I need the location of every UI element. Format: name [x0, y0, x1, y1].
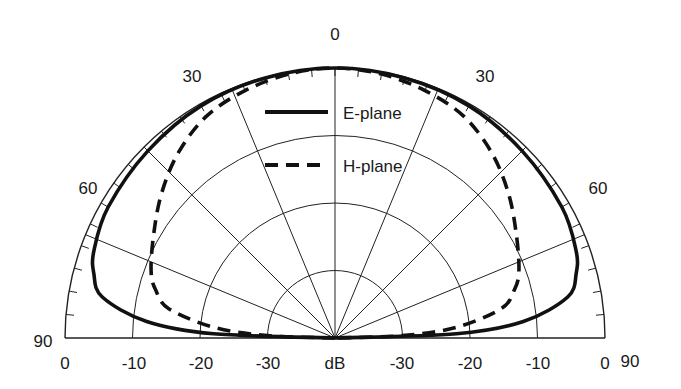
radial-tick-label: -30 — [256, 354, 281, 373]
radial-tick-label: -10 — [526, 354, 551, 373]
radial-tick-label: -20 — [458, 354, 483, 373]
tick-mark — [596, 315, 604, 316]
radial-tick-label: 0 — [600, 354, 609, 373]
tick-mark — [74, 268, 82, 270]
tick-mark — [66, 315, 74, 316]
grid-spoke — [232, 89, 335, 338]
axis-labels: 03030606090900-10-20-30dB-30-20-100 — [34, 25, 640, 373]
grid-spoke — [144, 147, 335, 338]
grid-spoke — [86, 235, 335, 338]
radial-tick-label: -30 — [390, 354, 415, 373]
tick-mark — [573, 224, 580, 227]
grid-spoke — [335, 89, 438, 338]
legend-h-plane-label: H-plane — [343, 157, 403, 176]
tick-mark — [593, 291, 601, 292]
angle-label: 90 — [621, 352, 640, 371]
legend-e-plane-label: E-plane — [343, 104, 402, 123]
radial-tick-label: -20 — [189, 354, 214, 373]
legend: E-plane H-plane — [265, 104, 403, 176]
polar-radiation-chart: 03030606090900-10-20-30dB-30-20-100 E-pl… — [0, 0, 681, 389]
polar-grid — [65, 68, 605, 338]
tick-mark — [90, 224, 97, 227]
angle-label: 60 — [79, 179, 98, 198]
radial-tick-label: -10 — [122, 354, 147, 373]
angle-label: 60 — [589, 179, 608, 198]
angle-label: 90 — [34, 332, 53, 351]
radial-unit-label: dB — [325, 354, 346, 373]
tick-mark — [581, 246, 589, 249]
radial-tick-label: 0 — [60, 354, 69, 373]
grid-spoke — [335, 235, 584, 338]
angle-label: 30 — [183, 67, 202, 86]
angle-label: 30 — [476, 67, 495, 86]
angle-label: 0 — [330, 25, 339, 44]
tick-mark — [81, 246, 89, 249]
tick-mark — [69, 291, 77, 292]
tick-mark — [588, 268, 596, 270]
